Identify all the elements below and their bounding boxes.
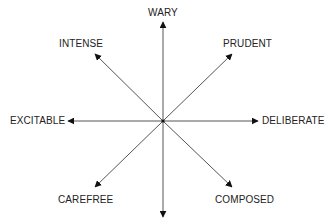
label-composed: COMPOSED [215,194,274,206]
axes-graphic [0,0,332,224]
temperament-compass-diagram: WARY PRUDENT DELIBERATE COMPOSED CAREFRE… [0,0,332,224]
center-point [161,119,164,122]
axis-down-left-arrow [95,121,163,187]
axis-up-left-arrow [95,54,163,121]
label-wary: WARY [148,7,178,19]
label-carefree: CAREFREE [58,194,113,206]
axis-down-right-arrow [163,121,232,187]
label-deliberate: DELIBERATE [262,115,325,127]
label-prudent: PRUDENT [223,38,272,50]
label-intense: INTENSE [59,38,103,50]
label-excitable: EXCITABLE [10,115,65,127]
axis-up-right-arrow [163,54,232,121]
